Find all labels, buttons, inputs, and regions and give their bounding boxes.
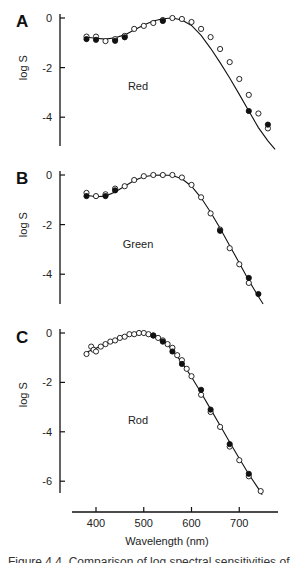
open-data-point (218, 424, 223, 429)
open-data-point (256, 111, 261, 116)
filled-data-point (208, 407, 213, 412)
open-data-points (84, 172, 252, 285)
y-tick-label: -2 (42, 376, 52, 388)
y-tick-label: 0 (46, 12, 52, 24)
y-tick-label: -4 (42, 268, 52, 280)
filled-data-point (113, 188, 118, 193)
open-data-point (160, 172, 165, 177)
panel-letter: C (16, 328, 28, 347)
open-data-point (227, 60, 232, 65)
open-data-point (113, 338, 118, 343)
open-data-point (218, 46, 223, 51)
open-data-point (184, 366, 189, 371)
filled-data-point (160, 339, 165, 344)
filled-data-points (84, 188, 261, 297)
filled-data-point (199, 387, 204, 392)
y-tick-label: -6 (42, 475, 52, 487)
open-data-point (189, 374, 194, 379)
open-data-point (246, 280, 251, 285)
figure-svg: A0-2-4log SRedB0-2-4log SGreenC0-2-4-6lo… (0, 0, 292, 563)
y-tick-label: -2 (42, 219, 52, 231)
panel-letter: A (16, 12, 28, 31)
open-data-point (170, 15, 175, 20)
open-data-point (208, 35, 213, 40)
x-tick-label: 700 (230, 517, 248, 529)
filled-data-point (256, 291, 261, 296)
series-label: Green (123, 238, 154, 250)
open-data-point (246, 92, 251, 97)
filled-data-point (103, 194, 108, 199)
filled-data-point (246, 471, 251, 476)
open-data-point (199, 392, 204, 397)
open-data-points (84, 15, 271, 131)
open-data-point (189, 182, 194, 187)
y-axis-title: log S (17, 382, 29, 407)
panel-b: B0-2-4log SGreen (16, 169, 263, 304)
filled-data-point (246, 275, 251, 280)
filled-data-point (170, 349, 175, 354)
open-data-point (179, 16, 184, 21)
x-tick-label: 500 (135, 517, 153, 529)
y-tick-label: 0 (46, 169, 52, 181)
filled-data-point (84, 194, 89, 199)
filled-data-points (151, 333, 252, 477)
filled-data-point (160, 18, 165, 23)
panel-c: C0-2-4-6log SRod400500600700Wavelength (… (16, 327, 278, 547)
open-data-point (93, 194, 98, 199)
filled-data-point (218, 228, 223, 233)
open-data-point (199, 26, 204, 31)
x-axis-title: Wavelength (nm) (125, 535, 208, 547)
open-data-point (103, 342, 108, 347)
spectral-sensitivity-figure: A0-2-4log SRedB0-2-4log SGreenC0-2-4-6lo… (0, 0, 292, 563)
open-data-point (237, 262, 242, 267)
y-tick-label: 0 (46, 327, 52, 339)
open-data-points (84, 330, 263, 493)
filled-data-point (179, 361, 184, 366)
open-data-point (170, 172, 175, 177)
open-data-point (189, 19, 194, 24)
y-axis-title: log S (17, 212, 29, 237)
y-axis-title: log S (17, 55, 29, 80)
filled-data-point (84, 37, 89, 42)
filled-data-point (151, 333, 156, 338)
figure-caption: Figure 4.4. Comparison of log spectral s… (8, 553, 292, 563)
open-data-point (141, 174, 146, 179)
open-data-point (258, 489, 263, 494)
open-data-point (132, 26, 137, 31)
open-data-point (208, 211, 213, 216)
filled-data-point (227, 442, 232, 447)
fit-curve (87, 333, 263, 495)
open-data-point (93, 349, 98, 354)
filled-data-point (93, 37, 98, 42)
fit-curve (87, 175, 264, 304)
filled-data-point (113, 38, 118, 43)
y-tick-label: -4 (42, 111, 52, 123)
filled-data-point (246, 108, 251, 113)
open-data-point (199, 195, 204, 200)
x-tick-label: 600 (182, 517, 200, 529)
open-data-point (175, 353, 180, 358)
y-tick-label: -4 (42, 426, 52, 438)
open-data-point (122, 184, 127, 189)
filled-data-point (122, 35, 127, 40)
open-data-point (227, 246, 232, 251)
open-data-point (151, 20, 156, 25)
open-data-point (237, 76, 242, 81)
panel-a: A0-2-4log SRed (16, 12, 275, 149)
y-tick-label: -2 (42, 62, 52, 74)
filled-data-points (84, 18, 271, 127)
open-data-point (179, 175, 184, 180)
panel-letter: B (16, 169, 28, 188)
open-data-point (141, 23, 146, 28)
series-label: Red (128, 80, 148, 92)
open-data-point (132, 177, 137, 182)
open-data-point (237, 458, 242, 463)
open-data-point (165, 342, 170, 347)
open-data-point (84, 351, 89, 356)
series-label: Rod (128, 414, 148, 426)
x-tick-label: 400 (87, 517, 105, 529)
open-data-point (103, 39, 108, 44)
filled-data-point (265, 122, 270, 127)
open-data-point (151, 172, 156, 177)
